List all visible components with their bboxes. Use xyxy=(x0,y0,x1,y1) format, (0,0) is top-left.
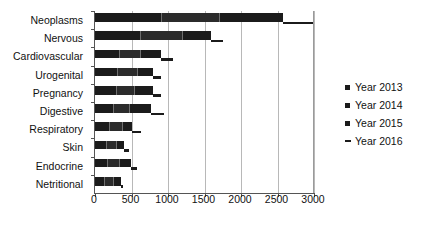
bar-segment-year-2015 xyxy=(137,68,153,77)
bar-row xyxy=(95,66,314,84)
x-axis-label-1000: 1000 xyxy=(155,193,178,205)
bar-segment-year-2016 xyxy=(132,131,141,134)
bar-segment-year-2014 xyxy=(106,141,116,150)
bar-segment-year-2015 xyxy=(113,177,120,186)
bar-row xyxy=(95,29,314,47)
bar-row xyxy=(95,84,314,102)
bar-segment-year-2016 xyxy=(211,40,223,43)
stacked-bar xyxy=(95,13,283,22)
bar-segment-year-2015 xyxy=(219,13,283,22)
legend-dash-icon xyxy=(345,140,351,142)
legend-label: Year 2015 xyxy=(355,117,403,129)
bar-segment-year-2016 xyxy=(161,58,173,61)
bar-segment-year-2014 xyxy=(113,104,129,113)
bar-segment-year-2015 xyxy=(116,141,124,150)
y-axis-label-5: Digestive xyxy=(0,102,88,120)
bar-segment-year-2013 xyxy=(95,13,161,22)
bar-segment-year-2013 xyxy=(95,50,119,59)
bar-segment-year-2015 xyxy=(129,104,151,113)
legend-square-icon xyxy=(345,85,350,90)
bar-segment-year-2016 xyxy=(153,94,161,97)
y-axis-label-0: Neoplasms xyxy=(0,11,88,29)
bar-row xyxy=(95,120,314,138)
legend-label: Year 2016 xyxy=(355,135,403,147)
bar-segment-year-2014 xyxy=(116,86,134,95)
stacked-bar xyxy=(95,86,153,95)
bar-segment-year-2013 xyxy=(95,104,113,113)
stacked-bar xyxy=(95,141,124,150)
stacked-bar xyxy=(95,68,153,77)
plot-frame-right-edge xyxy=(313,11,314,193)
bar-segment-year-2014 xyxy=(161,13,219,22)
y-axis-category-labels: NeoplasmsNervousCardiovascularUrogenital… xyxy=(0,11,88,193)
bar-segment-year-2015 xyxy=(119,159,131,168)
legend-label: Year 2014 xyxy=(355,99,403,111)
bar-segment-year-2015 xyxy=(182,31,211,40)
x-axis-label-2500: 2500 xyxy=(265,193,288,205)
bar-segment-year-2016 xyxy=(121,185,124,188)
stacked-bar xyxy=(95,50,161,59)
bar-row xyxy=(95,157,314,175)
legend-item-3[interactable]: Year 2016 xyxy=(345,132,403,150)
legend-item-1[interactable]: Year 2014 xyxy=(345,96,403,114)
legend-label: Year 2013 xyxy=(355,81,403,93)
gridline-3000 xyxy=(314,11,315,193)
x-axis-tick-labels: 050010001500200025003000 xyxy=(0,193,424,209)
bar-segment-year-2014 xyxy=(117,68,137,77)
bar-segment-year-2014 xyxy=(140,31,182,40)
bar-segment-year-2016 xyxy=(283,22,312,25)
bar-row xyxy=(95,47,314,65)
x-axis-label-0: 0 xyxy=(91,193,97,205)
bar-segment-year-2013 xyxy=(95,159,107,168)
stacked-bar xyxy=(95,122,132,131)
y-axis-label-4: Pregnancy xyxy=(0,84,88,102)
bar-segment-year-2013 xyxy=(95,68,117,77)
bar-segment-year-2013 xyxy=(95,31,140,40)
x-axis-label-1500: 1500 xyxy=(192,193,215,205)
bar-segment-year-2013 xyxy=(95,86,116,95)
bar-segment-year-2016 xyxy=(124,149,129,152)
stacked-bar xyxy=(95,159,131,168)
bar-segment-year-2014 xyxy=(104,177,113,186)
bar-segment-year-2016 xyxy=(153,76,161,79)
bar-segment-year-2013 xyxy=(95,141,106,150)
bar-row xyxy=(95,138,314,156)
legend-square-icon xyxy=(345,121,350,126)
bar-row xyxy=(95,102,314,120)
bar-row xyxy=(95,175,314,193)
x-axis-label-3000: 3000 xyxy=(301,193,324,205)
x-axis-label-2000: 2000 xyxy=(228,193,251,205)
plot-area xyxy=(94,11,314,194)
bar-segment-year-2016 xyxy=(151,113,163,116)
bar-segment-year-2014 xyxy=(107,159,119,168)
bar-segment-year-2015 xyxy=(134,86,152,95)
bar-segment-year-2014 xyxy=(119,50,140,59)
legend-item-0[interactable]: Year 2013 xyxy=(345,78,403,96)
y-axis-label-9: Netritional xyxy=(0,175,88,193)
legend-item-2[interactable]: Year 2015 xyxy=(345,114,403,132)
chart-legend: Year 2013Year 2014Year 2015Year 2016 xyxy=(345,78,403,150)
x-axis-label-500: 500 xyxy=(122,193,140,205)
y-axis-label-1: Nervous xyxy=(0,29,88,47)
bar-chart: NeoplasmsNervousCardiovascularUrogenital… xyxy=(0,0,424,225)
bar-segment-year-2016 xyxy=(131,167,137,170)
legend-square-icon xyxy=(345,103,350,108)
y-axis-label-3: Urogenital xyxy=(0,66,88,84)
bar-segment-year-2015 xyxy=(122,122,132,131)
y-axis-label-2: Cardiovascular xyxy=(0,47,88,65)
stacked-bar xyxy=(95,31,211,40)
bar-segment-year-2013 xyxy=(95,122,109,131)
y-axis-label-7: Skin xyxy=(0,138,88,156)
bar-row xyxy=(95,11,314,29)
y-axis-label-8: Endocrine xyxy=(0,157,88,175)
stacked-bar xyxy=(95,104,151,113)
bar-segment-year-2013 xyxy=(95,177,104,186)
bar-segment-year-2014 xyxy=(109,122,122,131)
bar-segment-year-2015 xyxy=(140,50,160,59)
stacked-bar xyxy=(95,177,121,186)
y-axis-label-6: Respiratory xyxy=(0,120,88,138)
